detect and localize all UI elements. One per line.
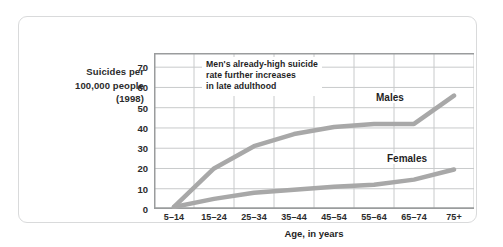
x-axis-tick-7: 75+: [446, 212, 462, 222]
series-label-males: Males: [373, 92, 407, 103]
x-axis-tick-labels: 5–1415–2425–3435–4445–5455–6465–7475+: [154, 212, 474, 226]
x-axis-tick-2: 25–34: [241, 212, 267, 222]
y-axis-tick-labels: 010203040506070: [116, 57, 148, 209]
x-axis-tick-6: 65–74: [401, 212, 427, 222]
x-axis-tick-4: 45–54: [321, 212, 347, 222]
x-axis-title: Age, in years: [154, 228, 474, 239]
series-label-females: Females: [384, 153, 430, 164]
x-axis-tick-0: 5–14: [164, 212, 184, 222]
y-axis-tick-40: 40: [137, 122, 148, 133]
annotation-line-3: in late adulthood: [206, 81, 318, 92]
annotation-line-2: rate further increases: [206, 70, 318, 81]
x-axis-tick-3: 35–44: [281, 212, 307, 222]
y-axis-tick-70: 70: [137, 62, 148, 73]
y-axis-tick-50: 50: [137, 102, 148, 113]
chart-annotation: Men's already-high suicide rate further …: [202, 57, 322, 96]
chart-figure: Suicides per 100,000 people (1998) 01020…: [18, 16, 477, 223]
y-axis-tick-10: 10: [137, 183, 148, 194]
y-axis-tick-20: 20: [137, 163, 148, 174]
y-axis-tick-30: 30: [137, 143, 148, 154]
y-axis-tick-60: 60: [137, 82, 148, 93]
x-axis-tick-1: 15–24: [201, 212, 227, 222]
y-axis-tick-0: 0: [143, 204, 148, 215]
annotation-line-1: Men's already-high suicide: [206, 59, 318, 70]
x-axis-tick-5: 55–64: [361, 212, 387, 222]
